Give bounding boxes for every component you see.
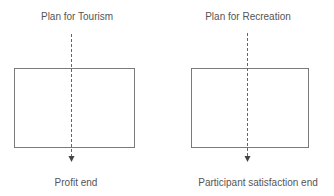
- tourism-box: [15, 69, 135, 148]
- recreation-arrow-down-icon: [245, 156, 251, 162]
- tourism-arrow-down-icon: [69, 156, 75, 162]
- diagram-graphics: [0, 0, 334, 196]
- recreation-box: [192, 69, 309, 148]
